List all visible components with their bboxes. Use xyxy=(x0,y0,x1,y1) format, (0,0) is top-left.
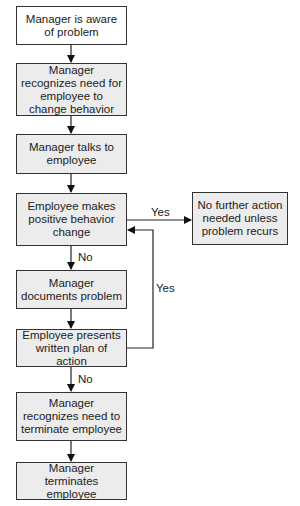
node-terminates: Manager terminates employee xyxy=(16,462,127,500)
node-manager-recognizes-change: Manager recognizes need for employee to … xyxy=(16,63,127,116)
node-label: Employee presents written plan of action xyxy=(21,329,122,368)
node-label: Manager terminates employee xyxy=(21,462,122,501)
node-label: No further action needed unless problem … xyxy=(197,199,283,238)
node-positive-change: Employee makes positive behavior change xyxy=(16,193,127,246)
node-label: Manager documents problem xyxy=(21,277,122,303)
edge-label-yes-right: Yes xyxy=(151,206,170,219)
edge-label-no-2: No xyxy=(78,373,93,386)
node-label: Manager is aware of problem xyxy=(21,13,122,39)
node-no-further-action: No further action needed unless problem … xyxy=(192,192,288,245)
node-manager-talks: Manager talks to employee xyxy=(16,134,127,174)
node-label: Manager recognizes need to terminate emp… xyxy=(21,397,122,436)
node-label: Manager talks to employee xyxy=(21,141,122,167)
node-plan-of-action: Employee presents written plan of action xyxy=(16,329,127,367)
node-manager-documents: Manager documents problem xyxy=(16,270,127,309)
node-label: Manager recognizes need for employee to … xyxy=(21,64,122,116)
node-manager-aware: Manager is aware of problem xyxy=(16,6,127,45)
edge-label-no-1: No xyxy=(78,251,93,264)
edge-label-yes-loop: Yes xyxy=(156,282,175,295)
node-recognizes-terminate: Manager recognizes need to terminate emp… xyxy=(16,392,127,441)
node-label: Employee makes positive behavior change xyxy=(21,200,122,239)
